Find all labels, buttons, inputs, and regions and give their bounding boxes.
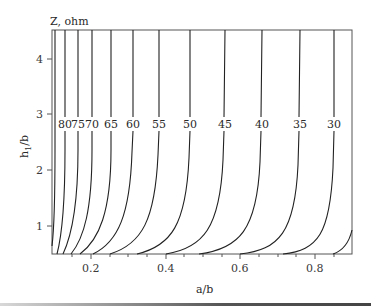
contour-label: 40	[255, 118, 269, 131]
contour-curve-45	[166, 30, 225, 254]
contour-labels: 80 75 70 65 60 55 50 45 40 35 30	[58, 118, 341, 131]
x-tick-label: 0.2	[82, 262, 100, 275]
contour-label: 35	[293, 118, 307, 131]
contour-curve-55	[110, 30, 159, 254]
contour-curve-30	[283, 30, 334, 254]
svg-text:h1/b: h1/b	[18, 135, 33, 158]
x-tick-label: 0.6	[231, 262, 249, 275]
chart-title: Z, ohm	[50, 15, 89, 28]
contour-curve-65	[80, 30, 111, 254]
y-tick-label: 1	[36, 220, 43, 233]
contour-curve-right	[333, 230, 352, 254]
contour-curve-70	[71, 30, 92, 254]
contour-label: 80	[58, 118, 72, 131]
y-axis-title: h1/b	[18, 135, 33, 158]
contour-label: 70	[85, 118, 99, 131]
contour-curve-80	[57, 30, 65, 254]
contour-label: 50	[183, 118, 197, 131]
contour-label: 45	[218, 118, 232, 131]
x-axis	[72, 254, 334, 259]
y-tick-label: 2	[36, 164, 43, 177]
contour-label: 65	[104, 118, 118, 131]
y-axis	[47, 59, 52, 226]
contour-curve-60	[93, 30, 133, 254]
contour-label: 60	[126, 118, 140, 131]
contour-chart: Z, ohm 1 2 3 4 h1/b 0.2 0.4 0.6 0.8 a/b	[0, 0, 371, 306]
contour-curve-50	[137, 30, 190, 254]
plot-frame	[52, 30, 352, 254]
x-axis-title: a/b	[196, 283, 213, 296]
x-tick-label: 0.4	[157, 262, 175, 275]
x-tick-label: 0.8	[306, 262, 324, 275]
contour-label: 55	[152, 118, 166, 131]
contour-label: 30	[327, 118, 341, 131]
y-tick-label: 3	[36, 108, 43, 121]
contour-label: 75	[71, 118, 85, 131]
contour-curves	[52, 30, 352, 254]
contour-curve-40	[199, 30, 262, 254]
y-tick-label: 4	[36, 53, 43, 66]
